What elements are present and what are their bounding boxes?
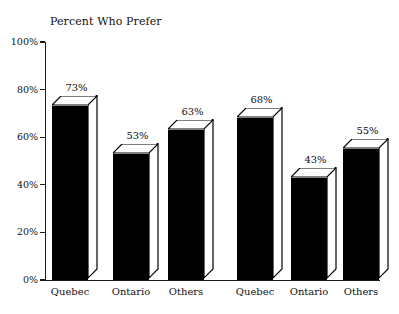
x-axis-baseline <box>45 280 380 281</box>
y-axis-tick-label: 40% <box>0 179 38 191</box>
y-axis-line <box>45 42 46 281</box>
bar-g2-ontario <box>291 165 339 280</box>
y-axis-tick <box>40 184 45 185</box>
bar-side-face <box>379 138 390 280</box>
y-axis-tick <box>40 41 45 42</box>
y-axis-tick-label-text: 0% <box>0 274 38 285</box>
y-axis-tick-label-text: 20% <box>0 226 38 237</box>
y-axis-tick <box>40 279 45 280</box>
x-axis-category-label: Ontario <box>101 286 161 297</box>
y-axis-tick-label: 60% <box>0 131 38 143</box>
x-axis-category-label: Quebec <box>225 286 285 297</box>
y-axis-tick-label-text: 40% <box>0 179 38 190</box>
bar-g1-ontario <box>113 141 161 280</box>
bar-chart-figure: Percent Who Prefer 100%80%60%40%20%0% 73… <box>0 0 399 314</box>
bar-side-face <box>149 143 160 280</box>
x-axis-category-label: Others <box>331 286 391 297</box>
y-axis-tick-label-text: 80% <box>0 84 38 95</box>
bar-g2-quebec <box>237 105 285 280</box>
bar-value-label-g2-quebec: 68% <box>239 94 284 105</box>
bar-g2-others <box>343 136 391 280</box>
bar-value-label-g1-others: 63% <box>170 106 215 117</box>
x-axis-category-label: Others <box>156 286 216 297</box>
bar-front-face <box>113 154 149 280</box>
bar-front-face <box>52 106 88 280</box>
y-axis-tick <box>40 89 45 90</box>
bar-value-label-g1-quebec: 73% <box>54 82 99 93</box>
y-axis-tick <box>40 232 45 233</box>
y-axis-tick <box>40 137 45 138</box>
bar-side-face <box>327 167 338 280</box>
bar-front-face <box>168 130 204 280</box>
bar-front-face <box>237 118 273 280</box>
bar-side-face <box>204 119 215 280</box>
bar-side-face <box>273 107 284 280</box>
y-axis-tick-label-text: 100% <box>0 36 38 47</box>
bar-g1-others <box>168 117 216 280</box>
x-axis-category-label: Quebec <box>40 286 100 297</box>
y-axis-tick-label: 80% <box>0 84 38 96</box>
bar-side-face <box>88 95 99 280</box>
y-axis-tick-label-text: 60% <box>0 131 38 142</box>
bar-front-face <box>343 149 379 280</box>
y-axis-tick-label: 100% <box>0 36 38 48</box>
bar-front-face <box>291 178 327 280</box>
x-axis-category-label: Ontario <box>279 286 339 297</box>
bar-value-label-g2-ontario: 43% <box>293 154 338 165</box>
chart-title: Percent Who Prefer <box>50 15 162 28</box>
y-axis-tick-label: 0% <box>0 274 38 286</box>
bar-value-label-g1-ontario: 53% <box>115 130 160 141</box>
bar-value-label-g2-others: 55% <box>345 125 390 136</box>
y-axis-tick-label: 20% <box>0 226 38 238</box>
bar-g1-quebec <box>52 93 100 280</box>
